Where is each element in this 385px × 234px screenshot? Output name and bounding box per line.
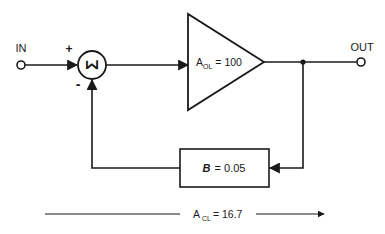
open-loop-amplifier: AOL= 100 [188, 14, 264, 110]
output-node-icon [357, 58, 365, 66]
input-terminal: IN [16, 42, 27, 69]
closed-loop-gain-annotation: ACL= 16.7 [45, 208, 324, 222]
feedback-block-diagram: IN Σ + - AOL= 100 OUT B= 0.05 ACL= 16.7 [0, 0, 385, 234]
feedback-return-line [92, 80, 180, 168]
closed-loop-gain-label: ACL= 16.7 [193, 208, 243, 222]
input-label: IN [16, 42, 27, 54]
input-node-icon [17, 61, 25, 69]
sigma-icon: Σ [83, 60, 102, 70]
minus-sign: - [76, 76, 81, 92]
feedback-path-line [270, 62, 303, 168]
plus-sign: + [65, 42, 72, 56]
summing-junction: Σ + - [65, 42, 106, 92]
feedback-block: B= 0.05 [180, 149, 269, 187]
feedback-factor-label: B= 0.05 [203, 162, 246, 174]
amplifier-gain-label: AOL= 100 [196, 56, 242, 70]
output-label: OUT [350, 41, 374, 53]
